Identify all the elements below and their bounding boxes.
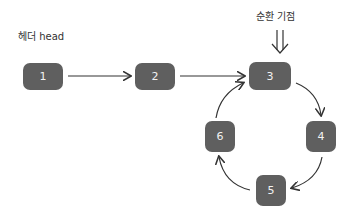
edges-layer [0,0,354,219]
edge-4-5 [292,157,322,188]
double-down-arrow-icon [272,30,288,53]
node-3: 3 [249,62,291,90]
node-2: 2 [135,63,175,90]
edge-5-6 [219,157,250,190]
node-6: 6 [205,121,235,152]
node-1: 1 [23,63,63,90]
edge-3-4 [296,83,321,115]
edge-6-3 [216,83,243,118]
node-4: 4 [306,121,336,152]
node-5: 5 [256,175,286,206]
